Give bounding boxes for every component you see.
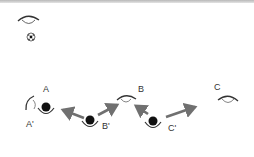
label-a: A [43,84,49,94]
ball-c-prime-icon [145,117,161,128]
arrow-b-prime-to-b [98,105,117,115]
eye-b-icon [117,96,136,102]
eye-c-icon [218,96,238,102]
label-a-prime: A' [26,119,34,129]
legend-soccer-ball-icon [27,33,35,41]
eye-a-icon [26,96,35,110]
label-c: C [214,82,221,92]
arrow-c-prime-to-b [136,106,148,114]
arrow-b-prime-to-a [63,110,84,118]
label-c-prime: C' [168,123,176,133]
ball-a-prime-icon [38,103,54,114]
legend-eye-icon [18,16,39,23]
diagram-canvas: A A' B' B C' C [0,0,254,157]
ball-b-prime-icon [82,116,98,127]
label-b: B [138,84,144,94]
arrow-c-prime-to-c [166,107,195,117]
label-b-prime: B' [102,121,110,131]
